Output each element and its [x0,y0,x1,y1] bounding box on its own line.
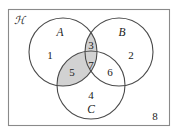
region-label-2: 2 [128,49,134,61]
set-label-a: A [55,26,64,38]
region-label-8-outside: 8 [152,110,158,122]
region-label-7: 7 [88,59,94,71]
region-label-3: 3 [88,39,94,51]
set-label-c: C [87,103,95,115]
region-label-4: 4 [88,89,94,101]
region-label-6: 6 [107,66,113,78]
venn-diagram-canvas: ℋ A B C 1 2 3 4 5 6 7 8 [0,0,178,138]
region-label-5: 5 [69,66,75,78]
set-label-b: B [118,26,125,38]
venn-diagram: ℋ A B C 1 2 3 4 5 6 7 8 [0,0,178,138]
region-label-1: 1 [47,49,53,61]
